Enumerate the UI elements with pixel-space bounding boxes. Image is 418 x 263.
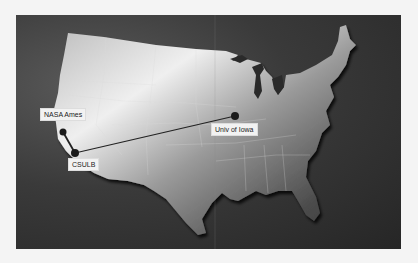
marker-csulb xyxy=(71,149,79,157)
label-csulb: CSULB xyxy=(68,158,99,171)
marker-nasa-ames xyxy=(60,129,67,136)
marker-univ-of-iowa xyxy=(231,112,239,120)
label-nasa-ames: NASA Ames xyxy=(40,108,86,121)
label-univ-of-iowa: Univ of Iowa xyxy=(211,123,258,136)
us-landmass xyxy=(54,25,356,235)
map-panel: NASA Ames CSULB Univ of Iowa xyxy=(16,15,401,249)
us-map xyxy=(16,15,401,249)
